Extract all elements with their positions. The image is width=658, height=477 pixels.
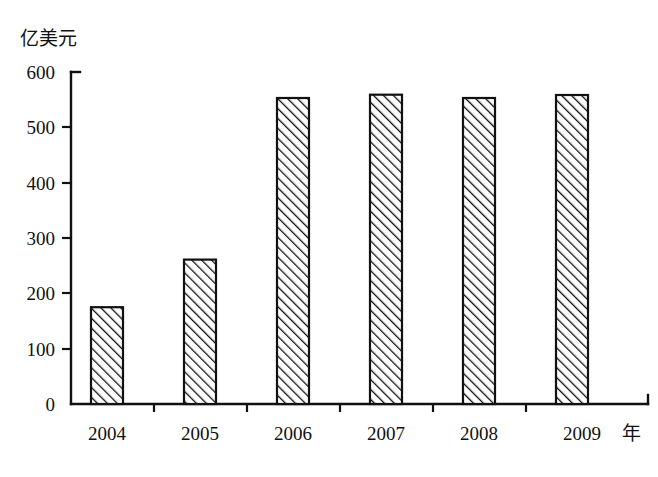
bar-2004 bbox=[91, 307, 123, 404]
bar-2008 bbox=[463, 98, 495, 404]
bar-chart-figure: 亿美元 0 100 200 300 400 500 600 bbox=[0, 0, 658, 477]
bar-2009 bbox=[556, 95, 588, 404]
y-tick-label-100: 100 bbox=[27, 339, 56, 360]
x-label-2004: 2004 bbox=[88, 423, 127, 444]
x-axis-unit-label: 年 bbox=[622, 423, 641, 444]
x-label-2009: 2009 bbox=[563, 423, 601, 444]
bar-2006 bbox=[277, 98, 309, 404]
y-tick-label-300: 300 bbox=[27, 228, 56, 249]
y-tick-label-0: 0 bbox=[46, 394, 56, 415]
x-label-2008: 2008 bbox=[460, 423, 498, 444]
x-label-2006: 2006 bbox=[274, 423, 312, 444]
chart-canvas: 亿美元 0 100 200 300 400 500 600 bbox=[0, 0, 658, 477]
y-tick-label-400: 400 bbox=[27, 173, 56, 194]
x-label-2007: 2007 bbox=[367, 423, 405, 444]
y-tick-label-600: 600 bbox=[27, 62, 56, 83]
y-axis-unit-label: 亿美元 bbox=[20, 28, 77, 49]
y-tick-label-200: 200 bbox=[27, 283, 56, 304]
y-tick-label-500: 500 bbox=[27, 117, 56, 138]
bar-2007 bbox=[370, 95, 402, 404]
x-label-2005: 2005 bbox=[181, 423, 219, 444]
bar-2005 bbox=[184, 260, 216, 404]
